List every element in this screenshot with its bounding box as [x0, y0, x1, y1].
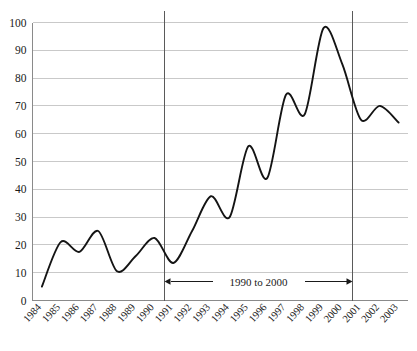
xtick-label: 1987 [77, 301, 99, 324]
xtick-label: 1985 [40, 301, 62, 324]
ytick-labels-group: 0102030405060708090100 [9, 17, 27, 307]
xtick-label: 1999 [303, 301, 325, 324]
xtick-label: 2001 [340, 301, 362, 324]
xtick-label: 1988 [96, 301, 118, 324]
gridlines-group [33, 23, 409, 273]
xtick-label: 1994 [209, 301, 232, 325]
ytick-label: 60 [15, 128, 27, 140]
xtick-label: 1992 [171, 301, 193, 324]
xtick-label: 1991 [153, 301, 175, 324]
line-chart: 0102030405060708090100 19841985198619871… [0, 0, 417, 351]
xtick-label: 2003 [378, 301, 400, 324]
ytick-label: 70 [15, 100, 27, 112]
xtick-label: 1993 [190, 301, 212, 324]
ytick-label: 80 [15, 72, 27, 84]
annotation-group: 1990 to 2000 [165, 276, 353, 288]
xtick-label: 1997 [265, 301, 287, 324]
ytick-label: 40 [15, 183, 27, 195]
xtick-label: 1990 [134, 301, 156, 324]
ytick-label: 100 [9, 17, 27, 29]
xtick-label: 1995 [228, 301, 250, 324]
series-line-series-1 [42, 27, 399, 287]
ytick-label: 90 [15, 44, 27, 56]
xtick-labels-group: 1984198519861987198819891990199119921993… [21, 301, 400, 325]
ytick-label: 10 [15, 267, 27, 279]
ytick-label: 30 [15, 211, 27, 223]
xtick-label: 2002 [359, 301, 381, 324]
annotation-label: 1990 to 2000 [229, 276, 288, 288]
chart-canvas: 0102030405060708090100 19841985198619871… [0, 0, 417, 351]
annotation-arrow-left-head [165, 278, 171, 284]
xtick-label: 1998 [284, 301, 306, 324]
ytick-label: 20 [15, 239, 27, 251]
xtick-label: 1996 [246, 301, 268, 324]
xtick-label: 1986 [59, 301, 81, 324]
xtick-label: 1989 [115, 301, 137, 324]
annotation-arrow-right-head [347, 278, 353, 284]
ytick-label: 50 [15, 156, 27, 168]
ytick-label: 0 [21, 295, 27, 307]
xtick-label: 2000 [322, 301, 344, 324]
series-group [42, 27, 399, 287]
reference-lines-group [165, 11, 353, 301]
